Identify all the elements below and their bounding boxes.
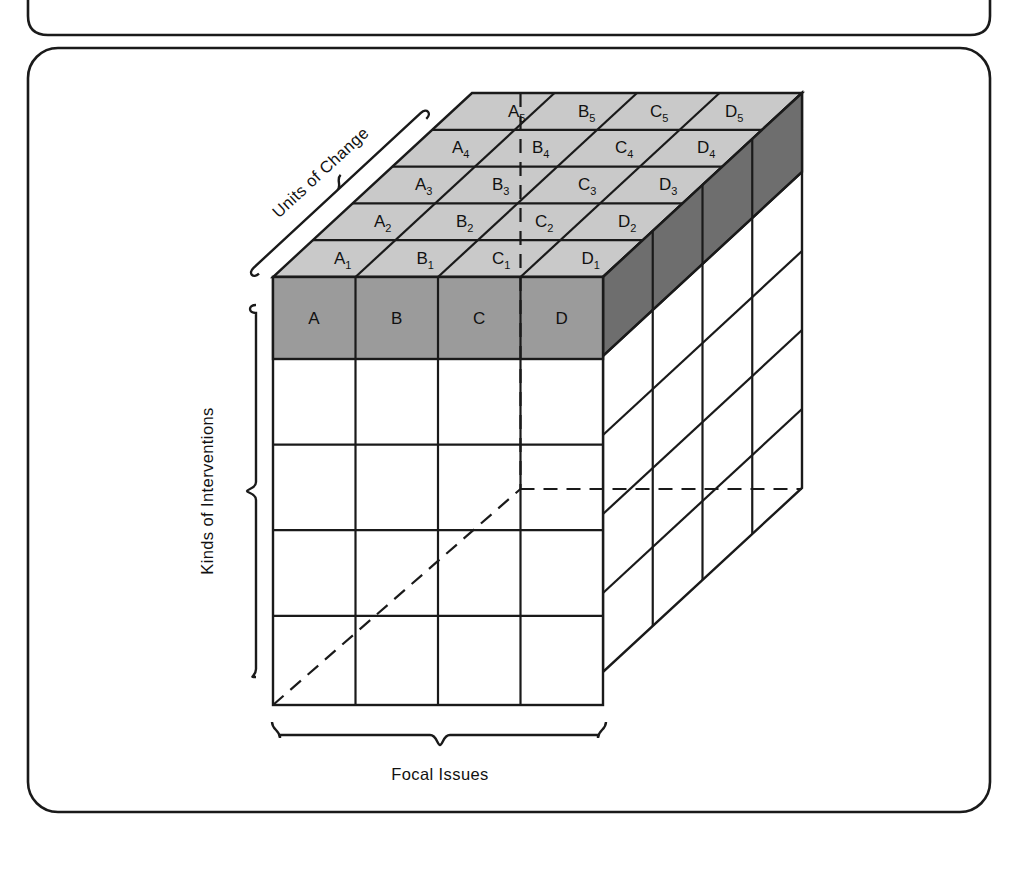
- front-cell-D: D: [556, 309, 568, 328]
- diagram-svg: A B C D A1 B1 C1 D1 A2 B2 C2 D2 A3 B3 C3…: [0, 0, 1018, 869]
- figure-canvas: A B C D A1 B1 C1 D1 A2 B2 C2 D2 A3 B3 C3…: [0, 0, 1018, 869]
- front-cell-C: C: [473, 309, 485, 328]
- front-cell-B: B: [391, 309, 402, 328]
- kinds-of-interventions-bracket: [247, 305, 256, 677]
- focal-issues-label: Focal Issues: [391, 765, 488, 783]
- focal-issues-bracket: [272, 722, 606, 745]
- upper-partial-frame: [28, 0, 990, 35]
- kinds-of-interventions-bracket-group: Kinds of Interventions: [198, 305, 256, 677]
- front-cell-A: A: [308, 309, 320, 328]
- focal-issues-bracket-group: Focal Issues: [272, 722, 606, 783]
- kinds-of-interventions-label: Kinds of Interventions: [198, 407, 216, 574]
